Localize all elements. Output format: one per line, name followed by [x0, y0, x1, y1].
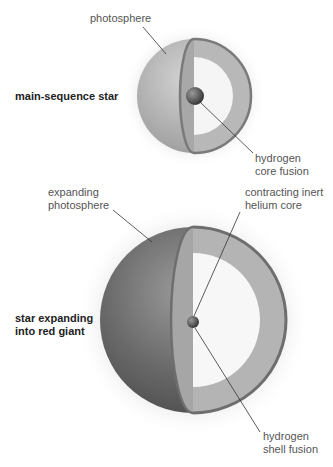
main-sequence-star [122, 24, 266, 168]
label-hydrogen-core-fusion: hydrogen core fusion [255, 152, 309, 178]
title-red-giant: star expanding into red giant [15, 312, 93, 338]
label-helium-core: contracting inert helium core [245, 186, 323, 212]
title-main-sequence: main-sequence star [15, 90, 118, 103]
label-hydrogen-shell-fusion: hydrogen shell fusion [263, 430, 318, 456]
red-giant-star [75, 202, 311, 438]
label-expanding-photosphere: expanding photosphere [48, 186, 109, 212]
helium-core [187, 316, 199, 328]
label-photosphere: photosphere [90, 12, 151, 25]
star-diagram [0, 0, 333, 467]
hydrogen-core [186, 87, 204, 105]
